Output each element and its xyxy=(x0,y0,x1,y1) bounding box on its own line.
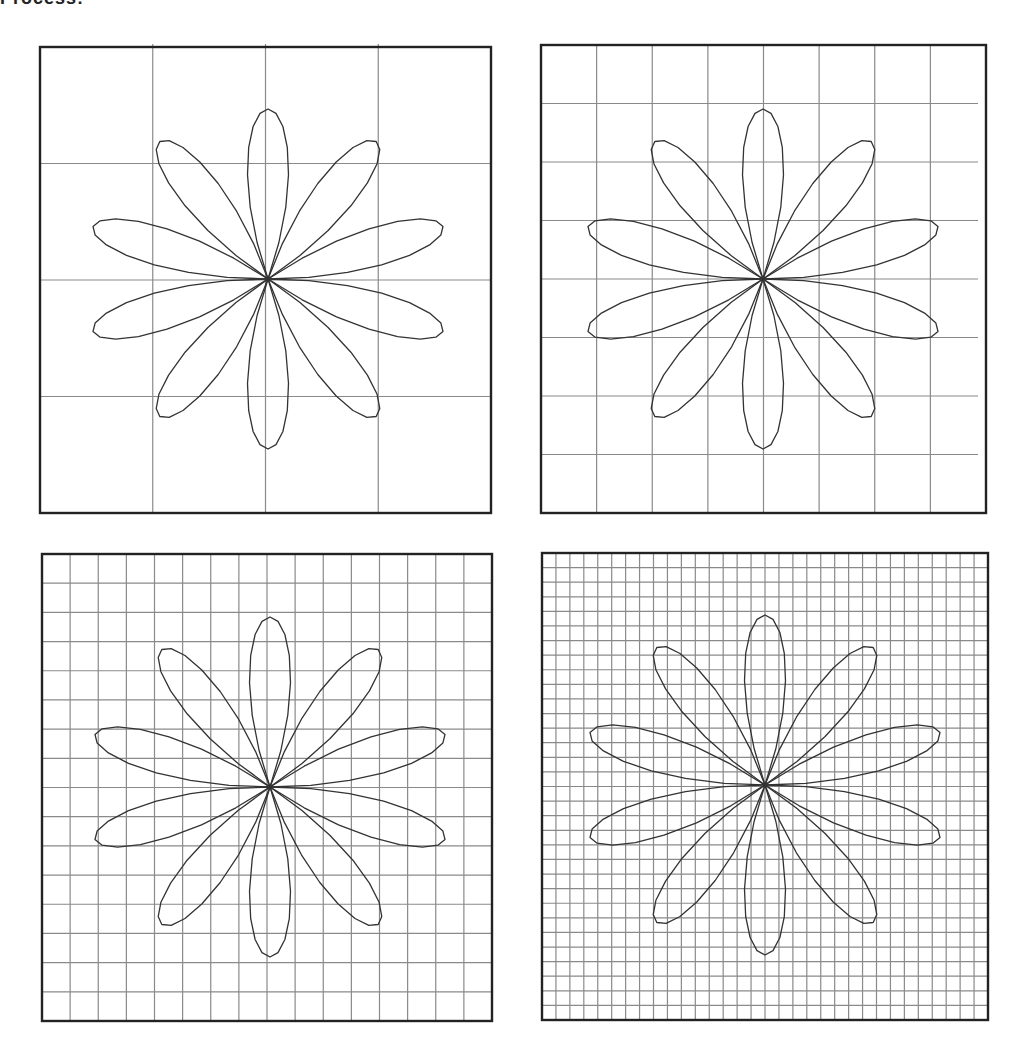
rose-curve xyxy=(93,109,443,449)
rose-petal xyxy=(588,279,763,339)
panel-grid-16 xyxy=(42,554,492,1021)
figure-canvas xyxy=(0,0,1023,1056)
rose-petal xyxy=(763,279,938,339)
rose-petal xyxy=(248,279,289,449)
rose-petal xyxy=(590,725,765,785)
rose-petal xyxy=(93,219,268,279)
rose-petal xyxy=(270,727,445,787)
panel-grid-4 xyxy=(40,44,491,513)
rose-petal xyxy=(250,787,291,957)
rose-petal xyxy=(268,279,443,339)
rose-petal xyxy=(250,617,291,787)
rose-petal xyxy=(248,109,289,279)
panel-grid-32 xyxy=(542,553,988,1020)
rose-petal xyxy=(93,279,268,339)
rose-petal xyxy=(588,219,763,279)
rose-petal xyxy=(765,725,940,785)
rose-petal xyxy=(268,219,443,279)
rose-petal xyxy=(763,219,938,279)
panel-grid-8 xyxy=(541,45,986,513)
